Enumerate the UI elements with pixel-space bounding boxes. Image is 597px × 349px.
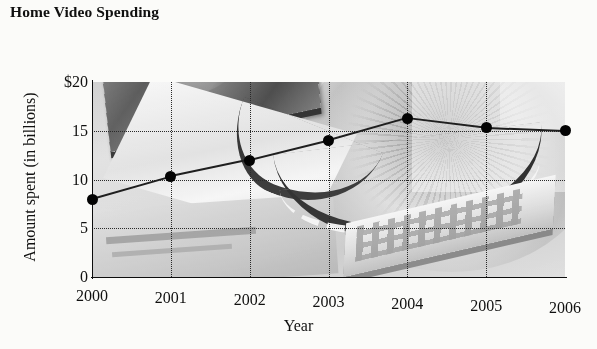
y-axis-tick-label: 5 — [80, 220, 88, 236]
data-point-marker[interactable] — [165, 171, 176, 182]
x-axis-tick-label: 2000 — [76, 288, 108, 304]
line-segment — [171, 159, 250, 178]
x-axis-tick-label: 2002 — [234, 292, 266, 308]
data-point-marker[interactable] — [244, 155, 255, 166]
x-axis-title: Year — [0, 317, 597, 335]
line-segment — [92, 175, 171, 200]
line-segment — [407, 117, 486, 129]
line-segment — [249, 139, 328, 161]
data-point-marker[interactable] — [560, 125, 571, 136]
y-axis-tick-label: 15 — [72, 123, 88, 139]
x-axis-line — [91, 277, 567, 278]
x-axis-tick-label: 2005 — [470, 298, 502, 314]
data-point-marker[interactable] — [87, 194, 98, 205]
data-point-marker[interactable] — [402, 113, 413, 124]
x-axis-tick-label: 2003 — [313, 294, 345, 310]
data-series-line — [92, 82, 565, 277]
x-axis-tick-label: 2004 — [391, 296, 423, 312]
chart-figure: Home Video Spending — [0, 0, 597, 349]
y-axis-tick-label: $20 — [64, 74, 88, 90]
y-axis-tick-label: 10 — [72, 172, 88, 188]
line-segment — [328, 117, 407, 142]
data-point-marker[interactable] — [323, 135, 334, 146]
y-axis-tick-label: 0 — [80, 269, 88, 285]
line-segment — [486, 127, 565, 132]
x-axis-tick-label: 2006 — [549, 300, 581, 316]
x-axis-tick-label: 2001 — [155, 290, 187, 306]
y-axis-title: Amount spent (in billions) — [21, 67, 39, 287]
y-axis-tick-labels: 051015$20 — [0, 0, 88, 349]
data-point-marker[interactable] — [481, 122, 492, 133]
